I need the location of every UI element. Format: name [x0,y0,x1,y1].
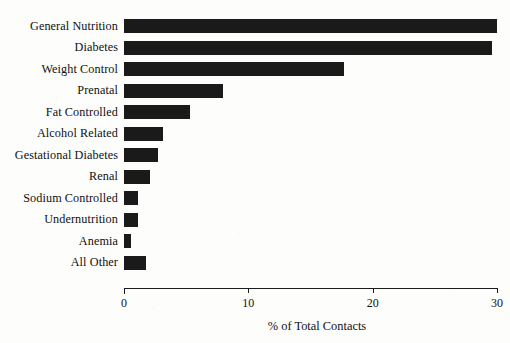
category-label: Anemia [79,233,118,248]
x-axis-title-text: % of Total Contacts [268,319,366,333]
bar-row: All Other [0,252,510,274]
category-label: Gestational Diabetes [15,147,118,162]
bar [124,19,497,33]
bar-row: Prenatal [0,80,510,102]
bar-row: Fat Controlled [0,101,510,123]
x-axis-line [124,288,497,289]
category-label: Renal [89,169,118,184]
bar [124,148,158,162]
bar-rows-container: General NutritionDiabetesWeight ControlP… [0,0,510,343]
category-label: All Other [71,255,118,270]
category-label: Diabetes [75,40,118,55]
bar [124,41,492,55]
category-label: Undernutrition [44,212,118,227]
bar-row: General Nutrition [0,15,510,37]
category-label: Fat Controlled [46,104,118,119]
x-axis-tick-label: 20 [367,296,379,311]
bar [124,170,150,184]
bar [124,105,190,119]
x-axis-tick-label: 30 [491,296,503,311]
category-label: Alcohol Related [37,126,118,141]
bar [124,213,138,227]
category-label: General Nutrition [30,18,118,33]
bar [124,256,146,270]
bar-row: Anemia [0,230,510,252]
bar-row: Gestational Diabetes [0,144,510,166]
category-label: Sodium Controlled [23,190,118,205]
chart-screenshot: General NutritionDiabetesWeight ControlP… [0,0,510,343]
x-axis-tick [248,288,249,293]
bar [124,234,131,248]
bar-row: Weight Control [0,58,510,80]
x-axis-tick [124,288,125,293]
category-label: Weight Control [41,61,118,76]
bar [124,62,344,76]
x-axis-tick [373,288,374,293]
bar-row: Undernutrition [0,209,510,231]
x-axis-tick-label: 10 [242,296,254,311]
bar-row: Sodium Controlled [0,187,510,209]
bar [124,84,223,98]
x-axis-tick-label: 0 [121,296,127,311]
bar [124,127,163,141]
bar-row: Renal [0,166,510,188]
bar-chart-plot: General NutritionDiabetesWeight ControlP… [0,0,510,343]
x-axis-tick [497,288,498,293]
bar-row: Diabetes [0,37,510,59]
bar-row: Alcohol Related [0,123,510,145]
x-axis-title: % of Total Contacts [0,319,510,334]
category-label: Prenatal [77,83,118,98]
bar [124,191,138,205]
